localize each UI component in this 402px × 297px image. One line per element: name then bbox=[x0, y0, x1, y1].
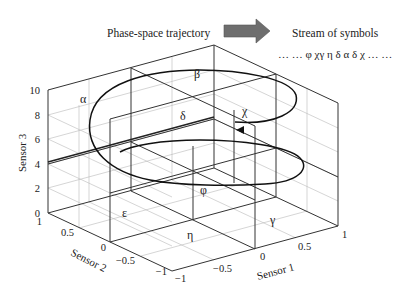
region-alpha: α bbox=[80, 92, 87, 106]
svg-text:2: 2 bbox=[35, 183, 40, 194]
svg-text:−0.5: −0.5 bbox=[116, 255, 135, 266]
right-arrow-icon bbox=[224, 19, 270, 43]
region-gamma: γ bbox=[269, 213, 276, 227]
region-chi: χ bbox=[241, 104, 248, 118]
trajectory-arrowhead-icon bbox=[236, 126, 244, 134]
z-axis-ticks: 0 2 4 6 8 10 bbox=[30, 85, 41, 219]
svg-text:−0.5: −0.5 bbox=[213, 263, 232, 274]
svg-text:10: 10 bbox=[30, 85, 41, 96]
region-epsilon: ε bbox=[122, 206, 127, 220]
svg-text:0: 0 bbox=[260, 251, 265, 262]
svg-text:8: 8 bbox=[35, 110, 40, 121]
svg-text:−1: −1 bbox=[156, 266, 167, 277]
stream-label: Stream of symbols bbox=[292, 27, 379, 40]
region-eta: η bbox=[187, 228, 193, 242]
region-beta: β bbox=[194, 67, 200, 81]
z-axis-label: Sensor 3 bbox=[16, 133, 28, 172]
phase-space-label: Phase-space trajectory bbox=[107, 27, 210, 40]
region-delta: δ bbox=[180, 109, 186, 123]
phase-space-diagram: Phase-space trajectory Stream of symbols… bbox=[0, 0, 402, 297]
svg-text:0: 0 bbox=[101, 242, 106, 253]
svg-text:4: 4 bbox=[35, 159, 41, 170]
svg-text:−1: −1 bbox=[175, 273, 186, 284]
svg-text:0.5: 0.5 bbox=[61, 227, 74, 238]
region-phi: φ bbox=[200, 183, 207, 197]
symbol-stream: … … φ χγ η δ α δ χ … … bbox=[278, 48, 392, 60]
svg-text:0.5: 0.5 bbox=[298, 241, 311, 252]
svg-text:1: 1 bbox=[342, 229, 347, 240]
svg-text:1: 1 bbox=[37, 216, 42, 227]
x-axis-label: Sensor 1 bbox=[255, 260, 295, 281]
svg-text:6: 6 bbox=[35, 134, 40, 145]
